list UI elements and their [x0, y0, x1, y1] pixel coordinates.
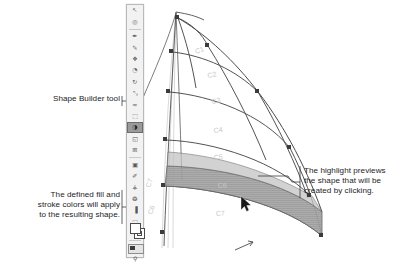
toolbar-item-selection-tool[interactable]: ↖ [127, 5, 143, 16]
direction-arrow-icon [235, 241, 253, 250]
pen-tool-icon: ✒ [132, 33, 137, 39]
curve-label-c6: C6 [218, 181, 228, 189]
toolbar-item-eyedropper-tool[interactable]: ✐ [127, 170, 143, 181]
toolbar-item-pen-tool[interactable]: ✒ [127, 31, 143, 42]
toolbar-item-blob-brush-tool[interactable]: ❖ [127, 54, 143, 65]
warp-tool-icon: ≈ [132, 102, 137, 108]
fill-swatch[interactable] [130, 223, 141, 234]
toolbar-item-perspective-grid-tool[interactable]: ◱ [127, 133, 143, 144]
curve-label-side-b: C6 [146, 204, 156, 215]
blob-brush-tool-icon: ❖ [132, 56, 137, 62]
free-transform-tool-icon: ⬚ [132, 113, 138, 119]
zoom-tool-icon: ⚲ [133, 256, 137, 262]
column-graph-tool-icon: ▐ [133, 207, 138, 213]
curve-label-c7: C7 [216, 210, 225, 217]
seam-c3 [170, 92, 290, 148]
toolbar-item-eraser-tool[interactable]: ◔ [127, 65, 143, 76]
toolbar-item-scale-tool[interactable]: ⤡ [127, 88, 143, 99]
blend-tool-icon: ⚶ [132, 185, 137, 191]
tools-panel[interactable]: ↖ ◎ ✒ ✎ ❖ ◔ ↻ ⤡ ≈ ⬚ ◑ [126, 4, 144, 258]
curve-label-c3: C3 [211, 97, 221, 105]
toolbar-divider [129, 157, 141, 158]
gradient-tool-icon: ▣ [132, 162, 138, 168]
toolbar-item-magic-wand-tool[interactable]: ◎ [127, 16, 143, 27]
rotate-tool-icon: ↻ [132, 79, 137, 85]
mesh-tool-icon: ⊞ [132, 147, 137, 153]
curve-label-side-a: C7 [144, 177, 154, 188]
perspective-grid-tool-icon: ◱ [132, 136, 138, 142]
shape-highlight-preview[interactable] [165, 152, 322, 236]
scale-tool-icon: ⤡ [133, 90, 138, 96]
selection-tool-icon: ↖ [132, 8, 137, 14]
symbol-sprayer-tool-icon: ❂ [132, 196, 137, 202]
caption-highlight-preview: The highlight previews the shape that wi… [304, 166, 408, 197]
toolbar-item-symbol-sprayer-tool[interactable]: ❂ [127, 193, 143, 204]
shape-builder-tool-icon: ◑ [132, 125, 137, 131]
toolbar-item-shape-builder-tool[interactable]: ◑ [127, 122, 143, 133]
toolbar-item-free-transform-tool[interactable]: ⬚ [127, 111, 143, 122]
caption-shape-builder-tool: Shape Builder tool [12, 94, 120, 104]
eraser-tool-icon: ◔ [132, 68, 137, 74]
toolbar-item-rotate-tool[interactable]: ↻ [127, 76, 143, 87]
toolbar-item-zoom-tool[interactable]: ⚲ [127, 253, 143, 264]
toolbar-item-pencil-tool[interactable]: ✎ [127, 42, 143, 53]
curve-label-c5: C5 [213, 153, 223, 161]
toolbar-item-gradient-tool[interactable]: ▣ [127, 159, 143, 170]
curve-label-c4: C4 [213, 126, 223, 134]
magic-wand-tool-icon: ◎ [132, 19, 137, 25]
pencil-tool-icon: ✎ [132, 45, 137, 51]
toolbar-item-warp-tool[interactable]: ≈ [127, 99, 143, 110]
curve-label-c1: C1 [194, 45, 205, 55]
eyedropper-tool-icon: ✐ [132, 173, 137, 179]
toolbar-item-column-graph-tool[interactable]: ▐ [127, 205, 143, 216]
toolbar-item-mesh-tool[interactable]: ⊞ [127, 145, 143, 156]
color-mode-swatch-fill [130, 246, 135, 250]
toolbar-divider [129, 29, 141, 30]
toolbar-item-blend-tool[interactable]: ⚶ [127, 182, 143, 193]
curve-label-c2: C2 [207, 70, 217, 79]
caption-fill-stroke: The defined fill and stroke colors will … [4, 190, 120, 221]
color-mode-swatch[interactable] [128, 244, 144, 254]
fill-stroke-swatches[interactable] [128, 222, 144, 240]
